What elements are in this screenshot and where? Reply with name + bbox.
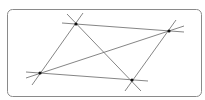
line-CB [26, 26, 184, 78]
point-A [74, 22, 77, 25]
line-group [26, 13, 184, 91]
geometry-diagram [0, 0, 205, 100]
point-C [38, 71, 41, 74]
point-D [130, 78, 133, 81]
point-B [167, 29, 170, 32]
